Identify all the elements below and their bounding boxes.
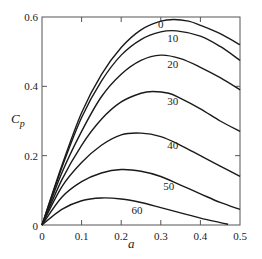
curve-label: 30 xyxy=(167,95,179,107)
curve-50 xyxy=(42,169,240,225)
curve-label: 40 xyxy=(167,139,179,151)
y-axis-label-sub: p xyxy=(19,118,25,129)
x-tick-label: 0 xyxy=(39,230,45,242)
y-tick-label: 0 xyxy=(33,220,39,232)
y-tick-label: 0.2 xyxy=(24,150,38,162)
y-axis-label: Cp xyxy=(11,111,25,129)
curve-0 xyxy=(42,19,240,225)
x-tick-label: 0.2 xyxy=(114,230,128,242)
x-tick-label: 0.4 xyxy=(194,230,208,242)
y-tick-label: 0.6 xyxy=(24,11,38,23)
cp-curves xyxy=(42,19,240,225)
x-tick-labels: 00.10.20.30.40.5 xyxy=(39,230,247,242)
curve-label: 0 xyxy=(158,18,164,30)
axis-ticks xyxy=(42,17,240,225)
curve-label: 10 xyxy=(167,32,179,44)
curve-labels: 0102030405060 xyxy=(132,18,179,215)
x-tick-label: 0.1 xyxy=(75,230,89,242)
plot-frame xyxy=(42,17,240,225)
y-tick-label: 0.4 xyxy=(24,80,38,92)
curve-label: 60 xyxy=(132,204,144,216)
curve-label: 50 xyxy=(163,180,175,192)
x-axis-label: a xyxy=(128,236,135,251)
x-tick-label: 0.5 xyxy=(233,230,247,242)
x-tick-label: 0.3 xyxy=(154,230,168,242)
y-tick-labels: 00.20.40.6 xyxy=(24,11,38,232)
curve-label: 20 xyxy=(167,58,179,70)
chart-canvas: 00.10.20.30.40.5 00.20.40.6 010203040506… xyxy=(0,0,262,259)
y-axis-label-main: C xyxy=(11,111,20,126)
